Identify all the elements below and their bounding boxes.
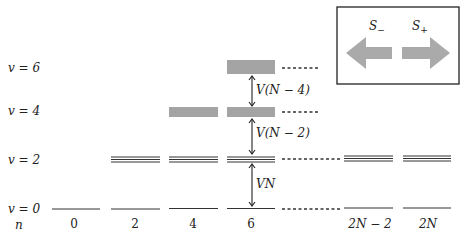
level-label-v4: v = 4 bbox=[8, 105, 40, 117]
gap-label-v0-v2: VN bbox=[256, 178, 275, 190]
legend-box bbox=[337, 7, 459, 84]
lowering-operator-label: S− bbox=[369, 20, 385, 35]
raising-operator-label: S+ bbox=[412, 20, 428, 35]
level-label-v2: v = 2 bbox=[8, 154, 40, 166]
energy-level-diagram: v = 6 v = 4 v = 2 v = 0 n 0 2 4 6 2N − 2… bbox=[0, 0, 464, 239]
x-tick-6: 6 bbox=[247, 218, 255, 230]
gap-label-v2-v4: V(N − 2) bbox=[256, 127, 310, 139]
diagram-canvas bbox=[0, 0, 464, 239]
x-tick-2: 2 bbox=[131, 218, 139, 230]
x-tick-0: 0 bbox=[70, 218, 78, 230]
gap-label-v4-v6: V(N − 4) bbox=[256, 84, 310, 96]
level-v2 bbox=[111, 156, 451, 162]
level-label-v6: v = 6 bbox=[8, 62, 40, 74]
level-v6 bbox=[227, 61, 275, 73]
gap-arrows bbox=[249, 76, 255, 206]
x-axis-label: n bbox=[15, 219, 23, 231]
x-tick-2n: 2N bbox=[419, 218, 437, 230]
x-tick-2n-minus-2: 2N − 2 bbox=[348, 218, 391, 230]
x-tick-4: 4 bbox=[189, 218, 197, 230]
level-label-v0: v = 0 bbox=[8, 203, 40, 215]
level-v4 bbox=[169, 108, 275, 116]
level-v0 bbox=[52, 208, 451, 209]
